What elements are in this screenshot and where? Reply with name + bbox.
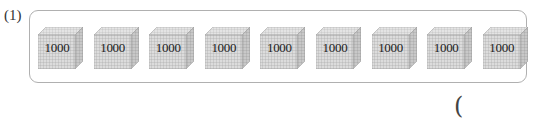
cube-value: 1000	[484, 40, 520, 56]
thousand-cube: 1000	[427, 27, 472, 69]
thousand-cube: 1000	[94, 27, 139, 69]
thousand-cube: 1000	[260, 27, 305, 69]
question-label: (1)	[4, 7, 22, 24]
thousand-cube: 1000	[149, 27, 194, 69]
thousand-cube: 1000	[483, 27, 528, 69]
cube-value: 1000	[206, 40, 242, 56]
thousand-cube: 1000	[316, 27, 361, 69]
cube-value: 1000	[428, 40, 464, 56]
cube-value: 1000	[95, 40, 131, 56]
thousand-cube: 1000	[205, 27, 250, 69]
answer-open-paren: (	[454, 92, 463, 120]
cube-value: 1000	[150, 40, 186, 56]
thousand-cube: 1000	[38, 27, 83, 69]
cube-row: 1000 1000	[38, 27, 528, 69]
cube-value: 1000	[39, 40, 75, 56]
thousand-cube: 1000	[372, 27, 417, 69]
cube-value: 1000	[373, 40, 409, 56]
cube-value: 1000	[317, 40, 353, 56]
cube-value: 1000	[261, 40, 297, 56]
